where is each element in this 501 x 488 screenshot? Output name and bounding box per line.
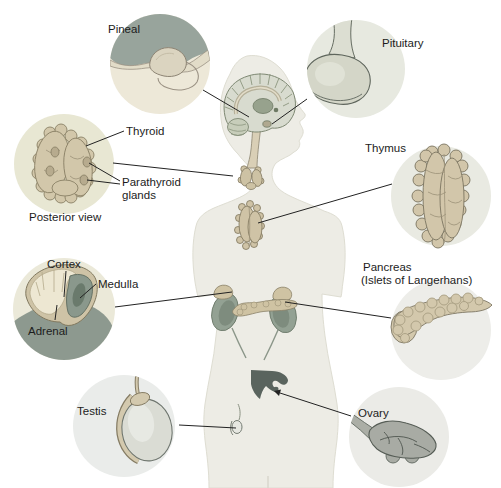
ovary-label: Ovary [358, 407, 389, 419]
pituitary-inset-circle [305, 18, 405, 118]
thalamus [253, 99, 273, 114]
pituitary-label: Pituitary [382, 37, 424, 49]
medulla-label: Medulla [98, 278, 139, 290]
adrenal-label: Adrenal [28, 325, 68, 337]
thyroid-inset-circle [14, 114, 114, 214]
ovary-inset-circle [348, 387, 449, 487]
adrenal-inset-circle [12, 258, 115, 362]
posterior-view-caption: Posterior view [29, 211, 102, 223]
thyroid-label: Thyroid [126, 125, 164, 137]
pineal-label: Pineal [108, 23, 140, 35]
pituitary-in-brain [263, 121, 271, 127]
testis-label: Testis [77, 405, 107, 417]
thymus-label: Thymus [365, 142, 406, 154]
pancreas-label-line2: (Islets of Langerhans) [361, 274, 472, 286]
pancreas-inset-circle [391, 280, 492, 380]
pineal-inset-circle [105, 5, 215, 114]
testis-inset-circle [73, 375, 176, 477]
cerebellum [228, 119, 249, 136]
endocrine-diagram: Pineal Pituitary Thyroid Parathyroid gla… [0, 0, 501, 488]
thymus-inset-circle [391, 144, 491, 248]
thyroid-body-leader-line [113, 163, 233, 176]
pancreas-label-line1: Pancreas [363, 261, 412, 273]
diagram-svg: Pineal Pituitary Thyroid Parathyroid gla… [0, 0, 501, 488]
parathyroid-label-line2: glands [122, 189, 156, 201]
parathyroid-label-line1: Parathyroid [122, 176, 181, 188]
cortex-label: Cortex [47, 258, 81, 270]
